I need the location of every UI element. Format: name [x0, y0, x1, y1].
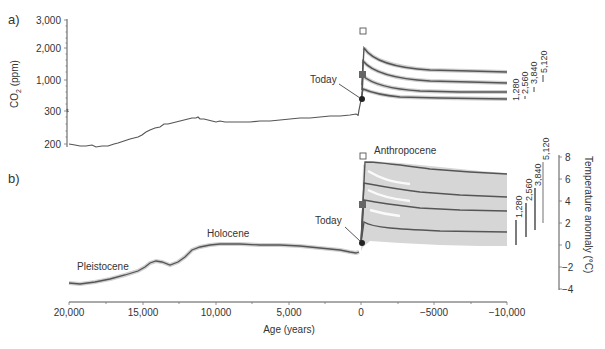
co2-scenarios [361, 48, 507, 100]
temperature-scenario-bands [361, 161, 507, 251]
panel-a-ylabel: CO2 (ppm) [9, 60, 22, 108]
today-dot-a [359, 96, 365, 102]
svg-text:2,000: 2,000 [36, 43, 61, 54]
co2-scenario-labels: 1,280 2,560 3,840 5,120 [511, 50, 549, 101]
svg-text:4: 4 [565, 196, 571, 207]
svg-text:20,000: 20,000 [54, 307, 85, 318]
x-axis-label: Age (years) [263, 324, 315, 335]
svg-text:3,000: 3,000 [36, 15, 61, 26]
svg-text:−2: −2 [562, 262, 574, 273]
anthropocene-open-square-marker-a [360, 28, 366, 34]
svg-text:1,280: 1,280 [514, 195, 524, 218]
filled-square-marker-a [359, 71, 366, 78]
svg-text:0: 0 [565, 240, 571, 251]
svg-text:−4: −4 [562, 284, 574, 295]
anthropocene-label: Anthropocene [374, 145, 437, 156]
svg-text:6: 6 [565, 174, 571, 185]
panel-a-yaxis: 3,000 2,000 1,000 300 200 [36, 15, 69, 150]
svg-text:3,840: 3,840 [529, 61, 539, 84]
svg-text:200: 200 [44, 139, 61, 150]
panel-b-ylabel: Temperature anomaly (°C) [583, 156, 594, 273]
svg-text:5,120: 5,120 [541, 137, 551, 160]
chart-figure: a) CO2 (ppm) 3,000 2,000 1,000 300 200 [0, 0, 605, 349]
svg-text:8: 8 [565, 152, 571, 163]
svg-text:5,120: 5,120 [539, 50, 549, 73]
svg-text:1,000: 1,000 [36, 75, 61, 86]
svg-text:0: 0 [358, 307, 364, 318]
svg-text:300: 300 [44, 106, 61, 117]
svg-text:10,000: 10,000 [201, 307, 232, 318]
svg-text:3,840: 3,840 [533, 163, 543, 186]
svg-text:15,000: 15,000 [128, 307, 159, 318]
pleistocene-label: Pleistocene [77, 261, 129, 272]
panel-b-yaxis: 8 6 4 2 0 −2 −4 [559, 152, 574, 295]
panel-b-label: b) [8, 171, 20, 186]
svg-text:−5000: −5000 [420, 307, 449, 318]
filled-square-marker-b [359, 201, 366, 208]
temperature-scenario-ranges: 1,280 2,560 3,840 5,120 [514, 137, 551, 245]
today-label-a: Today [310, 74, 337, 85]
today-label-b: Today [315, 215, 342, 226]
svg-text:2: 2 [565, 218, 571, 229]
x-axis: 20,000 15,000 10,000 5,000 0 −5000 −10,0… [54, 302, 526, 335]
panel-a-label: a) [8, 12, 20, 27]
anthropocene-open-square-marker-b [360, 153, 366, 159]
svg-text:−10,000: −10,000 [489, 307, 526, 318]
co2-past-line [69, 114, 358, 147]
holocene-label: Holocene [207, 228, 250, 239]
svg-text:5,000: 5,000 [276, 307, 301, 318]
